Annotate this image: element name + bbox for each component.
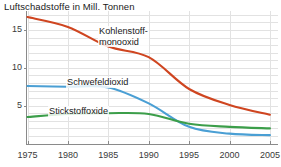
air-pollutants-line-chart: Luftschadstoffe in Mill. Tonnen 51015 19… bbox=[0, 0, 281, 167]
series-label-stickstoffoxide: Stickstoffoxide bbox=[48, 106, 109, 117]
series-label-kohlenstoffmonooxid: Kohlenstoff- monooxid bbox=[98, 26, 149, 47]
series-label-schwefeldioxid: Schwefeldioxid bbox=[66, 77, 129, 88]
